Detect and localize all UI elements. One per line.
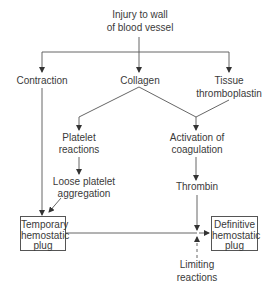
definitive-line3: plug: [212, 241, 257, 252]
node-injury: Injury to wall of blood vessel: [107, 9, 174, 34]
limiting-line1: Limiting: [177, 259, 218, 271]
node-collagen: Collagen: [120, 75, 159, 87]
limiting-line2: reactions: [177, 272, 218, 284]
loose-line1: Loose platelet: [53, 176, 115, 188]
platelet-line1: Platelet: [59, 132, 100, 144]
definitive-line1: Definitive: [212, 220, 257, 231]
node-activation-of-coagulation: Activation of coagulation: [170, 132, 224, 156]
node-definitive-hemostatic-plug: Definitive hemostatic plug: [211, 216, 258, 251]
injury-line1: Injury to wall: [107, 9, 174, 21]
node-contraction: Contraction: [16, 75, 67, 87]
node-platelet-reactions: Platelet reactions: [59, 132, 100, 156]
node-temporary-hemostatic-plug: Temporary hemostatic plug: [20, 216, 66, 251]
platelet-line2: reactions: [59, 144, 100, 156]
injury-line2: of blood vessel: [107, 22, 174, 34]
arrow-loose-to-temporary: [49, 198, 61, 212]
node-loose-platelet-aggregation: Loose platelet aggregation: [53, 176, 115, 200]
activation-line1: Activation of: [170, 132, 224, 144]
tissue-to-activation-line: [196, 100, 229, 117]
tissue-line2: thromboplastin: [196, 88, 262, 100]
node-thrombin: Thrombin: [176, 181, 218, 193]
loose-line2: aggregation: [53, 188, 115, 200]
tissue-line1: Tissue: [196, 75, 262, 87]
temporary-line3: plug: [21, 241, 65, 252]
temporary-line1: Temporary: [21, 220, 65, 231]
collagen-to-activation-line: [139, 87, 196, 117]
node-limiting-reactions: Limiting reactions: [177, 259, 218, 284]
collagen-to-platelet-line: [79, 87, 139, 117]
activation-line2: coagulation: [170, 144, 224, 156]
node-tissue-thromboplastin: Tissue thromboplastin: [196, 75, 262, 100]
